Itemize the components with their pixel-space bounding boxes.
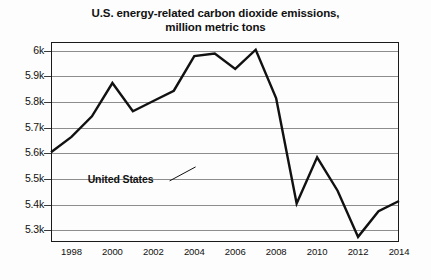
y-axis-label: 5.9k (0, 69, 44, 81)
y-axis-tick (44, 179, 51, 180)
gridline-horizontal (52, 128, 398, 129)
chart-title: U.S. energy-related carbon dioxide emiss… (0, 6, 431, 34)
gridline-horizontal (52, 76, 398, 77)
y-axis-tick (44, 128, 51, 129)
gridline-horizontal (52, 51, 398, 52)
y-axis-tick (44, 230, 51, 231)
y-axis-tick (44, 51, 51, 52)
y-axis-label: 6k (0, 44, 44, 56)
y-axis-tick (44, 102, 51, 103)
chart-title-line-2: million metric tons (0, 20, 431, 34)
chart-figure: U.S. energy-related carbon dioxide emiss… (0, 0, 431, 280)
plot-area (51, 42, 399, 242)
gridline-horizontal (52, 230, 398, 231)
y-axis-tick (44, 153, 51, 154)
x-axis-label: 2000 (92, 246, 132, 257)
x-axis-label: 1998 (51, 246, 91, 257)
y-axis-label: 5.5k (0, 172, 44, 184)
y-axis-tick (44, 76, 51, 77)
y-axis-tick (44, 205, 51, 206)
x-axis-label: 2002 (133, 246, 173, 257)
gridline-horizontal (52, 205, 398, 206)
x-axis-label: 2004 (174, 246, 214, 257)
y-axis-label: 5.6k (0, 146, 44, 158)
y-axis-label: 5.7k (0, 121, 44, 133)
x-axis-label: 2012 (338, 246, 378, 257)
x-axis-label: 2006 (215, 246, 255, 257)
x-axis-label: 2008 (256, 246, 296, 257)
gridline-horizontal (52, 102, 398, 103)
y-axis-label: 5.4k (0, 198, 44, 210)
series-annotation-united-states: United States (88, 173, 154, 185)
gridline-horizontal (52, 153, 398, 154)
y-axis-label: 5.3k (0, 223, 44, 235)
x-axis-label: 2010 (297, 246, 337, 257)
chart-title-line-1: U.S. energy-related carbon dioxide emiss… (92, 7, 340, 19)
y-axis-label: 5.8k (0, 95, 44, 107)
x-axis-label: 2014 (379, 246, 419, 257)
